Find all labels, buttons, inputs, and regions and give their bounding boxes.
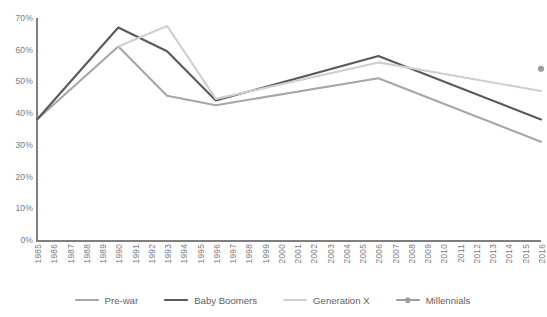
- x-tick-label: 2000: [277, 244, 287, 263]
- x-tick-label: 1988: [82, 244, 92, 263]
- x-axis-labels: 1985198619871988198919901991199219931994…: [37, 244, 541, 288]
- legend-label: Generation X: [313, 295, 370, 306]
- x-axis-line: [36, 240, 541, 242]
- x-tick-label: 2016: [537, 244, 547, 263]
- x-tick-label: 2012: [472, 244, 482, 263]
- x-tick-label: 1992: [147, 244, 157, 263]
- legend-swatch: [396, 299, 420, 302]
- legend-item[interactable]: Generation X: [283, 295, 370, 306]
- x-tick-label: 1993: [163, 244, 173, 263]
- y-tick-label: 60%: [15, 45, 33, 55]
- y-tick-label: 40%: [15, 108, 33, 118]
- legend-item[interactable]: Pre-war: [75, 295, 139, 306]
- y-tick-label: 70%: [15, 13, 33, 23]
- x-tick-label: 1989: [98, 244, 108, 263]
- series-line: [118, 26, 541, 99]
- y-tick-label: 20%: [15, 172, 33, 182]
- x-tick-label: 2006: [374, 244, 384, 263]
- y-axis-labels: 0%10%20%30%40%50%60%70%: [0, 0, 33, 317]
- x-tick-label: 2007: [391, 244, 401, 263]
- x-tick-label: 1985: [33, 244, 43, 263]
- chart-legend: Pre-warBaby BoomersGeneration XMillennia…: [0, 292, 545, 308]
- legend-item[interactable]: Baby Boomers: [164, 295, 257, 306]
- legend-label: Millennials: [426, 295, 471, 306]
- x-tick-label: 2003: [326, 244, 336, 263]
- x-tick-label: 1991: [131, 244, 141, 263]
- x-tick-label: 1997: [228, 244, 238, 263]
- x-tick-label: 1990: [114, 244, 124, 263]
- x-tick-label: 2010: [439, 244, 449, 263]
- x-tick-label: 2011: [456, 244, 466, 263]
- legend-item[interactable]: Millennials: [396, 295, 471, 306]
- x-tick-label: 1987: [66, 244, 76, 263]
- legend-swatch: [164, 299, 188, 302]
- plot-area: [37, 18, 541, 240]
- x-tick-label: 2015: [521, 244, 531, 263]
- x-tick-label: 1999: [261, 244, 271, 263]
- x-tick-label: 2014: [504, 244, 514, 263]
- series-lines: [37, 18, 541, 240]
- legend-swatch: [283, 299, 307, 302]
- x-tick-label: 2005: [358, 244, 368, 263]
- x-tick-label: 1994: [179, 244, 189, 263]
- series-marker: [538, 66, 544, 72]
- x-tick-label: 2004: [342, 244, 352, 263]
- y-tick-label: 0%: [20, 235, 33, 245]
- series-line: [37, 28, 541, 120]
- x-tick-label: 2013: [488, 244, 498, 263]
- series-line: [37, 47, 541, 142]
- x-tick-label: 2001: [293, 244, 303, 263]
- y-tick-label: 30%: [15, 140, 33, 150]
- legend-label: Baby Boomers: [194, 295, 257, 306]
- x-tick-label: 2009: [423, 244, 433, 263]
- y-tick-label: 10%: [15, 203, 33, 213]
- y-tick-label: 50%: [15, 76, 33, 86]
- x-tick-label: 1996: [212, 244, 222, 263]
- x-tick-label: 1986: [49, 244, 59, 263]
- x-tick-label: 2008: [407, 244, 417, 263]
- x-tick-label: 1995: [196, 244, 206, 263]
- x-tick-label: 1998: [244, 244, 254, 263]
- legend-swatch: [75, 299, 99, 302]
- x-tick-label: 2002: [309, 244, 319, 263]
- legend-label: Pre-war: [105, 295, 139, 306]
